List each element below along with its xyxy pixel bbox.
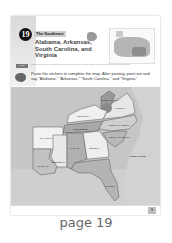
- southeast-highlight: [132, 47, 146, 56]
- page-caption: page 19: [0, 215, 172, 230]
- label-florida: FLORIDA: [105, 185, 116, 188]
- label-alabama: ALABAMA: [69, 147, 81, 150]
- page-footer: 9: [11, 205, 160, 215]
- instruction-text: Paste the stickers to complete the map. …: [31, 72, 156, 81]
- label-georgia: GEORGIA: [89, 147, 101, 150]
- label-louisiana: LOUISIANA: [37, 165, 50, 168]
- label-kentucky: KENTUCKY: [77, 115, 90, 118]
- label-mississippi: MISSISSIPPI: [51, 161, 66, 164]
- label-arkansas: ARKANSAS: [39, 137, 52, 140]
- label-south-carolina: SOUTH CAROLINA: [109, 136, 131, 139]
- southeast-map: VIRGINIA WEST VIRGINIA KENTUCKY TENNESSE…: [11, 87, 160, 205]
- us-inset-map: [109, 28, 155, 64]
- sticker-icon: [15, 73, 26, 82]
- info-text: Small descriptive paragraph about the st…: [31, 63, 156, 66]
- info-tag: Fact: [16, 64, 28, 68]
- page-title: Alabama, Arkansas, South Carolina, and V…: [35, 39, 97, 59]
- label-north-carolina: NORTH CAROLINA: [109, 124, 131, 127]
- label-tennessee: TENNESSEE: [73, 128, 88, 131]
- label-virginia: VIRGINIA: [115, 107, 126, 110]
- footer-page-number: 9: [148, 207, 156, 214]
- state-florida[interactable]: [71, 159, 119, 201]
- label-west-virginia: WEST VIRGINIA: [101, 99, 119, 102]
- region-shape-icon: [87, 32, 97, 41]
- label-atlantic-ocean: Atlantic Ocean: [129, 155, 146, 158]
- lesson-number-badge: 19: [19, 28, 32, 41]
- workbook-page: 19 The Southeast Alabama, Arkansas, Sout…: [11, 16, 160, 215]
- region-subtitle: The Southeast: [34, 31, 66, 37]
